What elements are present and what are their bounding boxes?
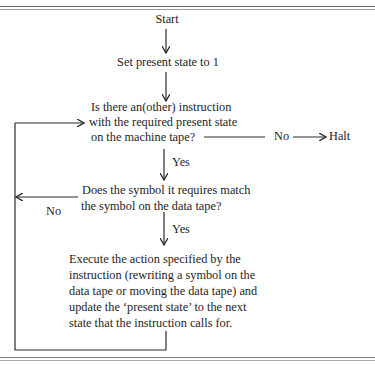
action-line-2: instruction (rewriting a symbol on the (69, 268, 255, 284)
action-line-5: state that the instruction calls for. (69, 316, 232, 332)
start-node: Start (155, 12, 178, 28)
q1-line-2: with the required present state (89, 115, 237, 131)
action-line-1: Execute the action specified by the (69, 252, 241, 268)
halt-node: Halt (329, 129, 350, 145)
bottom-rule-secondary (0, 360, 375, 361)
action-line-3: data tape or moving the data tape) and (69, 284, 257, 300)
q1-yes-label: Yes (172, 155, 190, 171)
q1-line-1: Is there an(other) instruction (91, 100, 231, 116)
q2-line-2: the symbol on the data tape? (81, 199, 221, 215)
init-node: Set present state to 1 (117, 55, 219, 71)
bottom-rule (0, 357, 375, 358)
q2-line-1: Does the symbol it requires match (82, 183, 250, 199)
q2-no-label: No (46, 204, 61, 220)
q2-yes-label: Yes (172, 222, 190, 238)
q1-line-3: on the machine tape? (91, 130, 195, 146)
action-line-4: update the ‘present state’ to the next (69, 300, 246, 316)
q1-no-label: No (274, 129, 289, 145)
